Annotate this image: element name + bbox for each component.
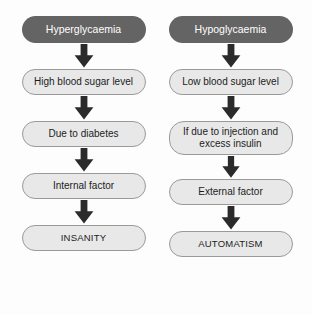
arrow-down-icon — [73, 43, 95, 69]
arrow-down-icon — [73, 199, 95, 225]
node-insanity: INSANITY — [22, 225, 146, 251]
column-hyperglycaemia: Hyperglycaemia High blood sugar level Du… — [10, 0, 157, 315]
node-high-blood-sugar-level: High blood sugar level — [22, 69, 146, 95]
node-internal-factor: Internal factor — [22, 173, 146, 199]
column-hypoglycaemia: Hypoglycaemia Low blood sugar level If d… — [157, 0, 304, 315]
arrow-down-icon — [220, 95, 242, 121]
node-external-factor: External factor — [169, 179, 293, 205]
node-line-2: excess insulin — [199, 138, 261, 149]
node-low-blood-sugar-level: Low blood sugar level — [169, 69, 293, 95]
node-if-due-to-injection: If due to injection and excess insulin — [169, 121, 293, 155]
node-automatism: AUTOMATISM — [169, 231, 293, 257]
arrow-down-icon — [73, 147, 95, 173]
node-header-hypoglycaemia: Hypoglycaemia — [169, 16, 293, 43]
node-line-1: If due to injection and — [183, 126, 278, 137]
arrow-down-icon — [73, 95, 95, 121]
arrow-down-icon — [220, 205, 242, 231]
arrow-down-icon — [220, 155, 242, 179]
flowchart-diagram: Hyperglycaemia High blood sugar level Du… — [0, 0, 312, 315]
node-due-to-diabetes: Due to diabetes — [22, 121, 146, 147]
arrow-down-icon — [220, 43, 242, 69]
node-header-hyperglycaemia: Hyperglycaemia — [22, 16, 146, 43]
